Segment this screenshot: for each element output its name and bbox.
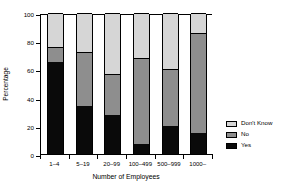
stacked-bar-chart: Percentage 020406080100 1–45–1920–99100–… xyxy=(0,0,296,187)
y-axis-title: Percentage xyxy=(3,67,10,101)
bar-stack[interactable] xyxy=(162,15,179,155)
x-tick xyxy=(126,154,127,159)
y-tick-label: 80 xyxy=(27,40,34,46)
bar-segment-no[interactable] xyxy=(163,69,178,125)
bar-segment-dont-know[interactable] xyxy=(77,13,92,52)
y-tick-label: 100 xyxy=(24,12,34,18)
bar-segment-yes[interactable] xyxy=(105,115,120,154)
y-tick-label: 40 xyxy=(27,96,34,102)
legend-swatch xyxy=(226,143,237,149)
bar-segment-no[interactable] xyxy=(77,52,92,106)
bar-column[interactable] xyxy=(104,15,121,155)
bar-segment-yes[interactable] xyxy=(163,126,178,154)
bar-column[interactable] xyxy=(190,15,207,155)
bar-segment-no[interactable] xyxy=(48,47,63,63)
x-tick xyxy=(69,154,70,159)
bar-segment-dont-know[interactable] xyxy=(191,13,206,33)
legend-item[interactable]: Yes xyxy=(226,140,292,151)
x-tick xyxy=(40,154,41,159)
y-tick xyxy=(36,15,41,16)
x-tick xyxy=(155,154,156,159)
x-tick-label: 1–4 xyxy=(49,161,59,167)
bar-segment-yes[interactable] xyxy=(134,144,149,154)
bar-segment-dont-know[interactable] xyxy=(163,13,178,69)
bar-column[interactable] xyxy=(76,15,93,155)
x-tick xyxy=(183,154,184,159)
x-tick-label: 100–499 xyxy=(129,161,152,167)
legend-swatch xyxy=(226,132,237,138)
bar-segment-yes[interactable] xyxy=(77,106,92,154)
legend-label: Don't Know xyxy=(241,120,272,126)
legend-label: No xyxy=(241,131,249,137)
x-tick-label: 1000– xyxy=(189,161,206,167)
plot-area: 020406080100 xyxy=(40,14,212,155)
bar-segment-dont-know[interactable] xyxy=(105,13,120,74)
y-tick xyxy=(36,128,41,129)
bar-stack[interactable] xyxy=(47,15,64,155)
bar-segment-yes[interactable] xyxy=(48,62,63,154)
bar-stack[interactable] xyxy=(104,15,121,155)
bar-segment-dont-know[interactable] xyxy=(48,13,63,47)
x-tick xyxy=(97,154,98,159)
y-tick-label: 0 xyxy=(31,153,34,159)
legend-label: Yes xyxy=(241,142,251,148)
legend-swatch xyxy=(226,121,237,127)
y-tick xyxy=(36,71,41,72)
bar-segment-no[interactable] xyxy=(105,74,120,115)
bar-column[interactable] xyxy=(133,15,150,155)
x-tick-label: 20–99 xyxy=(103,161,120,167)
x-tick-label: 500–999 xyxy=(157,161,180,167)
x-tick-label: 5–19 xyxy=(76,161,89,167)
bar-segment-dont-know[interactable] xyxy=(134,13,149,58)
bar-stack[interactable] xyxy=(76,15,93,155)
bar-stack[interactable] xyxy=(133,15,150,155)
x-tick xyxy=(212,154,213,159)
bar-segment-no[interactable] xyxy=(191,33,206,133)
legend-item[interactable]: No xyxy=(226,129,292,140)
bar-column[interactable] xyxy=(162,15,179,155)
legend: Don't KnowNoYes xyxy=(226,118,292,151)
y-tick-label: 60 xyxy=(27,68,34,74)
x-axis-title: Number of Employees xyxy=(92,174,159,181)
y-tick xyxy=(36,43,41,44)
y-tick xyxy=(36,100,41,101)
bar-stack[interactable] xyxy=(190,15,207,155)
legend-item[interactable]: Don't Know xyxy=(226,118,292,129)
y-tick-label: 20 xyxy=(27,125,34,131)
bar-segment-yes[interactable] xyxy=(191,133,206,154)
bar-segment-no[interactable] xyxy=(134,58,149,144)
bar-column[interactable] xyxy=(47,15,64,155)
